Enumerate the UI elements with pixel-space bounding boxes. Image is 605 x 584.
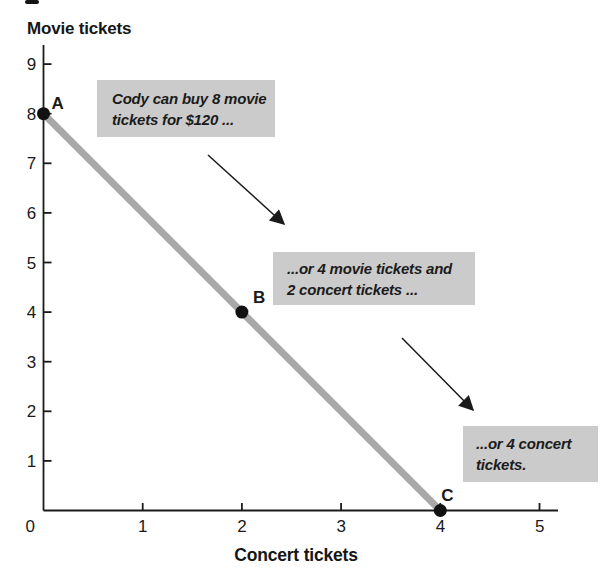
point-a-label: A <box>52 94 64 113</box>
callout-a-line-2: tickets for $120 ... <box>112 109 269 130</box>
y-tick-label: 1 <box>27 452 36 471</box>
annotation-arrow-2 <box>402 338 473 410</box>
callout-c-line-1: ...or 4 concert <box>476 433 592 454</box>
callout-c-line-2: tickets. <box>476 454 592 475</box>
point-b-dot <box>235 306 248 319</box>
x-axis-title: Concert tickets <box>38 545 554 566</box>
y-tick-label: 5 <box>27 254 36 273</box>
annotation-arrow-1 <box>208 155 284 224</box>
x-tick-label: 2 <box>237 517 246 536</box>
y-tick-label: 7 <box>27 154 36 173</box>
point-b-label: B <box>253 288 265 307</box>
callout-b-line-1: ...or 4 movie tickets and <box>287 258 469 279</box>
y-tick-label: 6 <box>27 204 36 223</box>
callout-b-line-2: 2 concert tickets ... <box>287 279 469 300</box>
point-c-dot <box>434 504 447 517</box>
y-tick-label: 9 <box>27 55 36 74</box>
x-tick-label: 0 <box>25 517 34 536</box>
budget-line-figure: Movie tickets 123456789012345ABC Cody ca… <box>0 0 605 584</box>
x-tick-label: 4 <box>436 517 445 536</box>
y-tick-label: 8 <box>27 105 36 124</box>
x-tick-label: 5 <box>535 517 544 536</box>
callout-point-c: ...or 4 concert tickets. <box>463 426 598 482</box>
x-tick-label: 1 <box>138 517 147 536</box>
y-tick-label: 3 <box>27 353 36 372</box>
y-tick-label: 2 <box>27 402 36 421</box>
point-c-label: C <box>441 486 453 505</box>
x-tick-label: 3 <box>337 517 346 536</box>
callout-a-line-1: Cody can buy 8 movie <box>112 88 269 109</box>
callout-point-b: ...or 4 movie tickets and 2 concert tick… <box>273 252 475 305</box>
point-a-dot <box>37 107 50 120</box>
callout-point-a: Cody can buy 8 movie tickets for $120 ..… <box>97 80 275 137</box>
y-tick-label: 4 <box>27 303 36 322</box>
